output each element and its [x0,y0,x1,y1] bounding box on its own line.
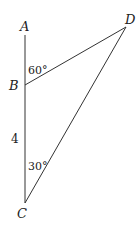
triangle-diagram: A B C D 60° 30° 4 [0,0,139,226]
label-angle-ABD: 60° [28,64,48,77]
line-CD [25,27,126,203]
label-point-C: C [17,206,27,221]
label-point-B: B [8,78,19,93]
label-point-A: A [19,19,29,34]
label-angle-BCD: 30° [28,160,48,173]
label-length-BC: 4 [11,132,19,146]
label-point-D: D [124,12,136,27]
